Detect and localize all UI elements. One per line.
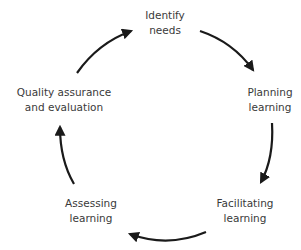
node-assessing-learning: Assessing learning [58,196,124,226]
node-label-line-1: Assessing [58,196,124,211]
node-facilitating-learning: Facilitating learning [210,196,280,226]
node-planning-learning: Planning learning [240,85,300,115]
node-identify-needs: Identify needs [130,8,200,38]
node-label-line-1: Quality assurance [12,85,116,100]
node-label-line-1: Facilitating [210,196,280,211]
node-quality-assurance: Quality assurance and evaluation [12,85,116,115]
node-label-line-1: Planning [240,85,300,100]
arrow-quality-to-identify [77,31,131,73]
learning-cycle-diagram: Identify needs Planning learning Facilit… [0,0,301,250]
arrow-identify-to-planning [200,31,253,70]
arrow-assessing-to-quality [60,127,74,184]
node-label-line-1: Identify [130,8,200,23]
node-label-line-2: learning [240,100,300,115]
node-label-line-2: needs [130,23,200,38]
node-label-line-2: and evaluation [12,100,116,115]
node-label-line-2: learning [210,211,280,226]
arrow-planning-to-facilitating [261,123,272,182]
arrow-facilitating-to-assessing [130,232,206,241]
node-label-line-2: learning [58,211,124,226]
